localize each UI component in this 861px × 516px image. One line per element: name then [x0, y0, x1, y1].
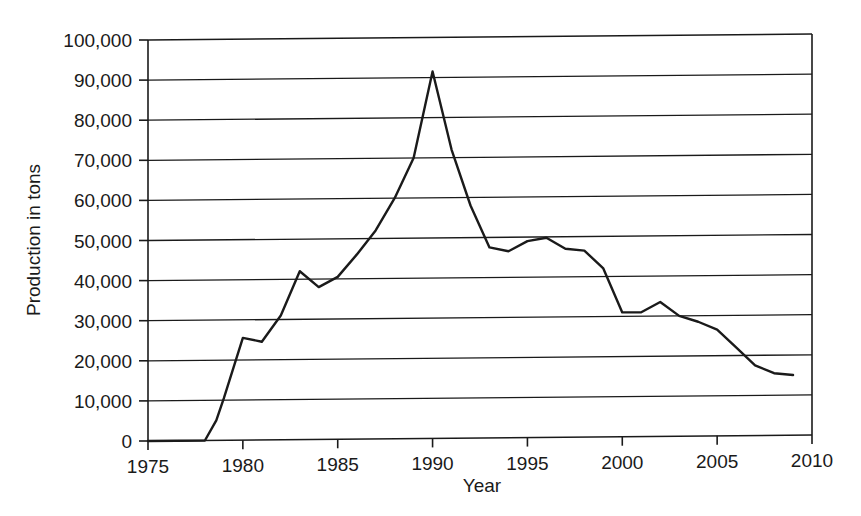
y-tick-label: 50,000: [74, 231, 132, 252]
y-tick-label: 70,000: [74, 150, 132, 171]
x-axis-line: [148, 435, 812, 441]
x-tick-label: 2005: [696, 451, 738, 472]
x-tick-label: 1985: [317, 454, 359, 475]
y-tick-label: 60,000: [74, 190, 132, 211]
data-line: [148, 72, 793, 441]
y-tick-label: 10,000: [74, 391, 132, 412]
y-axis-tick-labels: 010,00020,00030,00040,00050,00060,00070,…: [63, 30, 132, 452]
gridline: [148, 395, 812, 401]
x-tick-label: 1975: [127, 456, 169, 477]
gridline: [148, 275, 812, 281]
y-tick-label: 80,000: [74, 110, 132, 131]
x-axis-tick-labels: 19751980198519901995200020052010: [127, 450, 833, 477]
series-production-line: [148, 72, 793, 441]
x-axis-title: Year: [463, 475, 502, 496]
y-tick-label: 30,000: [74, 311, 132, 332]
axis-ticks: [139, 40, 812, 450]
gridline: [148, 74, 812, 80]
gridline: [148, 154, 812, 160]
x-tick-label: 1995: [506, 453, 548, 474]
y-tick-label: 0: [121, 431, 132, 452]
y-tick-label: 100,000: [63, 30, 132, 51]
x-tick-label: 1990: [411, 453, 453, 474]
y-tick-label: 40,000: [74, 271, 132, 292]
y-tick-label: 90,000: [74, 70, 132, 91]
gridline: [148, 235, 812, 241]
x-tick-label: 1980: [222, 455, 264, 476]
gridline: [148, 114, 812, 120]
gridline: [148, 34, 812, 40]
gridline: [148, 315, 812, 321]
y-tick-label: 20,000: [74, 351, 132, 372]
gridline: [148, 355, 812, 361]
chart-canvas: 010,00020,00030,00040,00050,00060,00070,…: [0, 0, 861, 516]
y-axis-title: Production in tons: [23, 164, 44, 316]
production-line-chart: 010,00020,00030,00040,00050,00060,00070,…: [0, 0, 861, 516]
gridlines: [148, 34, 812, 401]
x-tick-label: 2000: [601, 452, 643, 473]
gridline: [148, 194, 812, 200]
x-tick-label: 2010: [791, 450, 833, 471]
